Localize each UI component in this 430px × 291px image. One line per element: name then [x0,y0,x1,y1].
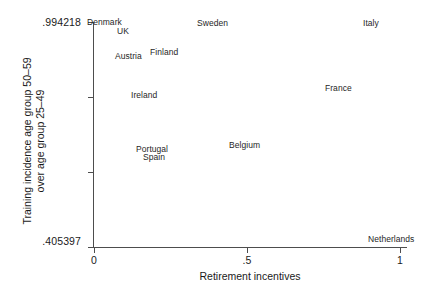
data-point-label-austria: Austria [115,52,142,61]
y-axis-tick-label-top: .994218 [42,16,81,28]
data-point-label-uk: UK [117,27,129,36]
x-axis-tick-one [400,248,401,253]
x-axis-title: Retirement incentives [93,270,407,282]
x-axis-tick-label-one: 1 [397,254,403,266]
data-point-label-italy: Italy [363,19,379,28]
y-axis-line [93,22,94,248]
y-axis-title-line-2: over age group 25–49 [34,41,47,241]
x-axis-tick-half [247,248,248,253]
data-point-label-netherlands: Netherlands [368,235,414,244]
y-axis-tick-label-bottom: .405397 [42,235,81,247]
x-axis-tick-0 [94,248,95,253]
y-axis-tick-2 [88,97,93,98]
y-axis-tick-3 [88,172,93,173]
data-point-label-sweden: Sweden [197,19,228,28]
x-axis-tick-label-half: .5 [243,254,252,266]
data-point-label-belgium: Belgium [229,141,260,150]
scatter-chart: .994218 .405397 0 .5 1 Training incidenc… [0,0,430,291]
y-axis-title: Training incidence age group 50–59 over … [21,41,47,241]
data-point-label-france: France [325,84,352,93]
data-point-label-spain: Spain [143,153,165,162]
y-axis-title-line-1: Training incidence age group 50–59 [21,41,34,241]
y-axis-tick-bottom [88,247,93,248]
x-axis-tick-label-0: 0 [91,254,97,266]
data-point-label-finland: Finland [150,48,178,57]
x-axis-line [93,247,407,248]
data-point-label-ireland: Ireland [131,91,157,100]
